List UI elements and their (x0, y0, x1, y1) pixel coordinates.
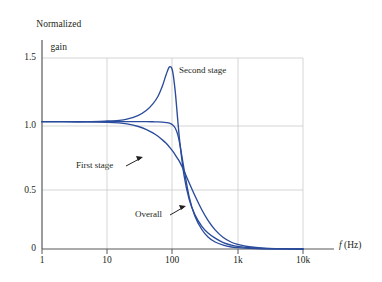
plot-svg (0, 0, 382, 282)
annotation-arrows (126, 156, 186, 215)
curve-overall (42, 122, 303, 249)
curve-second-stage (42, 67, 303, 249)
data-curves (42, 67, 303, 249)
normalized-gain-chart: Normalized gain 1.5 1.0 0.5 0 1 10 100 1… (0, 0, 382, 282)
grid-lines (42, 58, 303, 249)
curve-first-stage (42, 122, 303, 249)
axes (42, 40, 334, 254)
